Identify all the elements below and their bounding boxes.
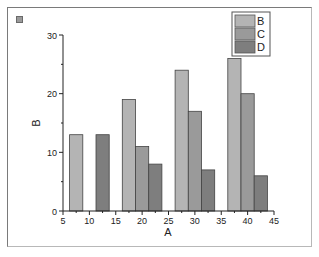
legend: B C D: [232, 12, 270, 56]
x-tick-label: 45: [269, 216, 279, 226]
x-tick-label: 30: [190, 216, 200, 226]
bar-b: [70, 135, 83, 211]
x-tick-label: 25: [163, 216, 173, 226]
bar-chart: 0102030 51015202530354045 A B B C D: [0, 0, 319, 257]
bar-b: [175, 70, 188, 211]
x-tick-label: 40: [243, 216, 253, 226]
y-axis-label: B: [30, 119, 42, 126]
bars-group: [70, 59, 268, 212]
bar-d: [254, 176, 267, 211]
bar-c: [136, 147, 149, 212]
bar-b: [122, 100, 135, 212]
x-tick-label: 15: [111, 216, 121, 226]
legend-label-d: D: [257, 41, 265, 53]
y-tick-label: 20: [47, 89, 57, 99]
bar-b: [228, 59, 241, 212]
x-tick-label: 10: [84, 216, 94, 226]
y-tick-label: 0: [52, 207, 57, 217]
x-axis-label: A: [164, 226, 172, 238]
bar-d: [149, 164, 162, 211]
y-ticks: 0102030: [47, 31, 63, 217]
x-tick-label: 5: [60, 216, 65, 226]
legend-swatch-b: [235, 15, 255, 27]
bar-c: [188, 111, 201, 211]
legend-label-b: B: [257, 15, 264, 27]
x-tick-label: 35: [216, 216, 226, 226]
bar-c: [241, 94, 254, 211]
y-tick-label: 30: [47, 31, 57, 41]
y-tick-label: 10: [47, 148, 57, 158]
legend-swatch-d: [235, 41, 255, 53]
legend-label-c: C: [257, 28, 265, 40]
bar-d: [202, 170, 215, 211]
x-ticks: 51015202530354045: [60, 211, 279, 226]
x-tick-label: 20: [137, 216, 147, 226]
bar-d: [96, 135, 109, 211]
legend-swatch-c: [235, 28, 255, 40]
